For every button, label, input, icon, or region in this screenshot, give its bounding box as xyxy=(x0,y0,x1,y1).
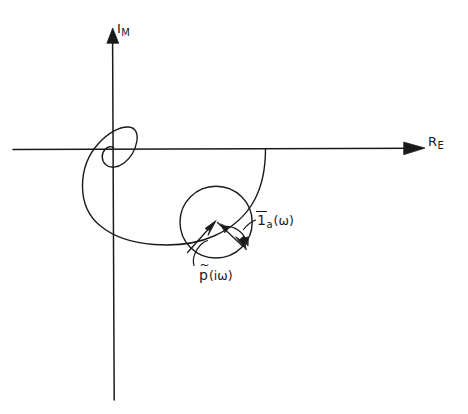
figure-canvas xyxy=(0,0,468,414)
figure-background xyxy=(0,0,468,414)
figure-root: IM RE 1a(ω) p(iω) xyxy=(0,0,468,414)
